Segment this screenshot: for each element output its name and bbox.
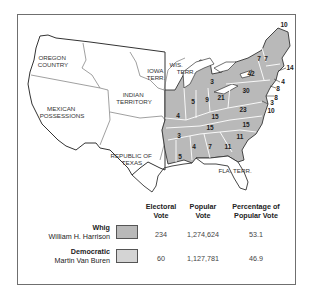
election-map: OREGON COUNTRY MEXICAN POSSESSIONS INDIA…	[0, 0, 309, 293]
ev-tennessee: 15	[206, 124, 214, 131]
ev-delaware: 3	[270, 99, 274, 106]
territory-label-iowa: IOWA TERR.	[147, 67, 166, 81]
territory-label-wisconsin: WIS. TERR.	[169, 61, 195, 75]
ev-georgia: 11	[225, 143, 232, 150]
ev-mississippi: 4	[192, 143, 196, 150]
territory-label-florida: FLA. TERR.	[218, 167, 252, 174]
ev-connecticut: 8	[276, 85, 280, 92]
ev-ohio: 21	[217, 94, 225, 101]
ev-louisiana: 5	[178, 153, 182, 160]
ev-new-jersey: 8	[274, 94, 278, 101]
ev-alabama: 7	[208, 143, 212, 150]
ev-maine: 10	[280, 21, 288, 28]
ev-north-carolina: 15	[242, 121, 250, 128]
ev-virginia: 23	[239, 106, 247, 113]
ev-pennsylvania: 30	[242, 87, 250, 94]
ev-missouri: 4	[176, 112, 180, 119]
ev-south-carolina: 11	[237, 133, 244, 140]
ev-new-york: 42	[247, 70, 255, 77]
ev-maryland: 10	[267, 107, 275, 114]
ev-kentucky: 15	[211, 113, 219, 120]
ev-indiana: 9	[205, 96, 209, 103]
ev-rhode-island: 4	[281, 78, 285, 85]
ev-michigan: 3	[210, 78, 214, 85]
ev-new-hampshire: 7	[264, 55, 268, 62]
territory-label-oregon: OREGON COUNTRY	[38, 54, 68, 68]
ev-vermont: 7	[257, 55, 261, 62]
ev-illinois: 5	[191, 98, 195, 105]
ev-massachusetts: 14	[286, 64, 294, 71]
ev-arkansas: 3	[177, 132, 181, 139]
